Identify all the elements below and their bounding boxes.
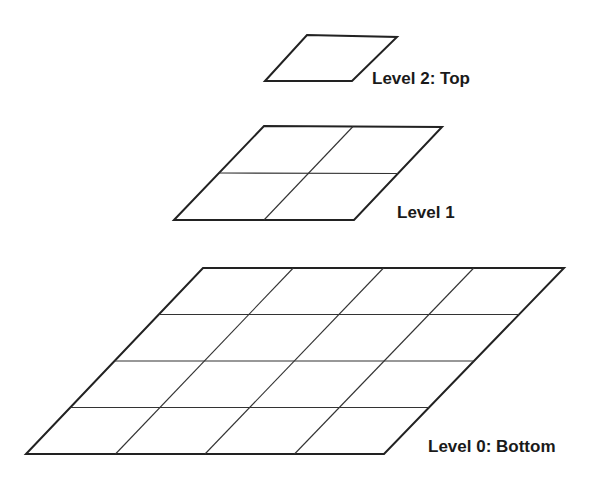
pyramid-diagram: Level 2: Top Level 1 Level 0: Bottom xyxy=(0,0,609,485)
level-0-label: Level 0: Bottom xyxy=(428,437,556,456)
level-0-plane xyxy=(26,268,564,454)
level-1-label: Level 1 xyxy=(397,203,455,222)
level-2-label: Level 2: Top xyxy=(372,69,470,88)
